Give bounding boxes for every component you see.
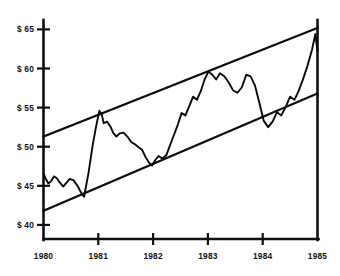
axes-group (44, 20, 319, 240)
chart-canvas: $ 40$ 45$ 50$ 55$ 60$ 65 198019811982198… (0, 0, 340, 276)
y-tick-label: $ 60 (17, 64, 34, 74)
y-tick-label: $ 40 (17, 220, 34, 230)
x-tick-labels-group: 198019811982198319841985 (34, 251, 328, 261)
x-tick-label: 1984 (253, 251, 273, 261)
price-line-series (44, 34, 318, 197)
x-tick-label: 1981 (89, 251, 109, 261)
y-tick-labels-group: $ 40$ 45$ 50$ 55$ 60$ 65 (17, 24, 34, 230)
stock-price-chart: $ 40$ 45$ 50$ 55$ 60$ 65 198019811982198… (0, 0, 340, 276)
y-tick-label: $ 45 (17, 181, 34, 191)
y-tick-label: $ 50 (17, 142, 34, 152)
x-tick-label: 1983 (198, 251, 218, 261)
upper-trendline (44, 28, 318, 137)
x-tick-label: 1985 (308, 251, 328, 261)
y-tick-label: $ 65 (17, 24, 34, 34)
y-tick-label: $ 55 (17, 103, 34, 113)
x-tick-label: 1980 (34, 251, 54, 261)
x-tick-label: 1982 (143, 251, 163, 261)
